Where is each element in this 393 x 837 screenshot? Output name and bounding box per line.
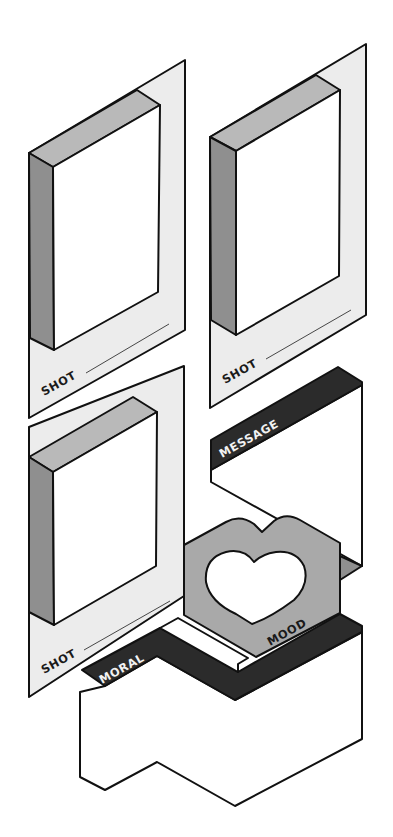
storyboard-illustration: MESSAGE MORAL MOOD SHOT — [0, 0, 393, 837]
frame-top-left: SHOT — [29, 60, 185, 418]
frame-top-right: SHOT — [210, 44, 366, 408]
